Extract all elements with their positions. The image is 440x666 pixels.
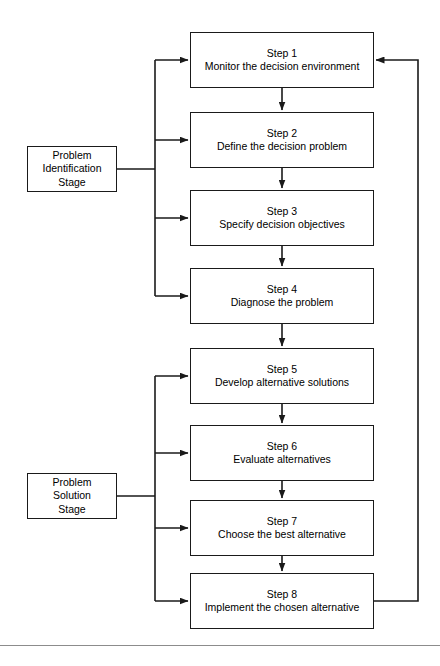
flowchart-diagram: Problem Identification Stage Problem Sol… bbox=[0, 0, 440, 666]
step-4-label: Step 4 bbox=[267, 283, 297, 296]
step-5-label: Step 5 bbox=[267, 363, 297, 376]
step-2-label: Step 2 bbox=[267, 127, 297, 140]
step-box-2[interactable]: Step 2 Define the decision problem bbox=[190, 112, 374, 168]
step-6-description: Evaluate alternatives bbox=[233, 453, 330, 466]
step-1-description: Monitor the decision environment bbox=[205, 60, 360, 73]
stage-box-problem-solution[interactable]: Problem Solution Stage bbox=[27, 473, 117, 519]
bottom-divider-rule bbox=[0, 645, 440, 646]
stage-label-line-1: Problem bbox=[52, 476, 91, 490]
stage-box-problem-identification[interactable]: Problem Identification Stage bbox=[27, 146, 117, 192]
step-8-label: Step 8 bbox=[267, 588, 297, 601]
stage-label-line-2: Solution bbox=[53, 489, 91, 503]
step-3-description: Specify decision objectives bbox=[219, 218, 344, 231]
step-box-8[interactable]: Step 8 Implement the chosen alternative bbox=[190, 573, 374, 629]
step-3-label: Step 3 bbox=[267, 205, 297, 218]
step-7-description: Choose the best alternative bbox=[218, 528, 346, 541]
step-5-description: Develop alternative solutions bbox=[215, 376, 349, 389]
connector-lines-layer bbox=[0, 0, 440, 666]
step-8-description: Implement the chosen alternative bbox=[205, 601, 360, 614]
stage-label-line-3: Stage bbox=[58, 176, 85, 190]
feedback-loop-step8-step1 bbox=[374, 60, 418, 601]
step-box-6[interactable]: Step 6 Evaluate alternatives bbox=[190, 425, 374, 481]
step-2-description: Define the decision problem bbox=[217, 140, 347, 153]
stage-label-line-1: Problem bbox=[52, 149, 91, 163]
step-1-label: Step 1 bbox=[267, 47, 297, 60]
step-box-7[interactable]: Step 7 Choose the best alternative bbox=[190, 500, 374, 556]
step-4-description: Diagnose the problem bbox=[231, 296, 334, 309]
step-7-label: Step 7 bbox=[267, 515, 297, 528]
step-6-label: Step 6 bbox=[267, 440, 297, 453]
stage-label-line-3: Stage bbox=[58, 503, 85, 517]
step-box-3[interactable]: Step 3 Specify decision objectives bbox=[190, 190, 374, 246]
step-box-4[interactable]: Step 4 Diagnose the problem bbox=[190, 268, 374, 324]
step-box-1[interactable]: Step 1 Monitor the decision environment bbox=[190, 32, 374, 88]
stage-label-line-2: Identification bbox=[43, 162, 102, 176]
step-box-5[interactable]: Step 5 Develop alternative solutions bbox=[190, 348, 374, 404]
